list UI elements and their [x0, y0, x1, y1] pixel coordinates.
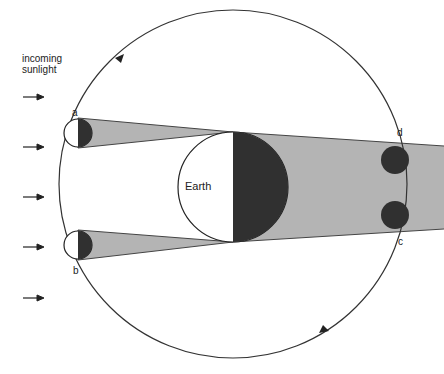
moon-a-label: a [72, 107, 78, 118]
sunlight-label-line1: incoming [22, 53, 62, 64]
moon-c-label: c [398, 236, 403, 247]
sunlight-label-line2: sunlight [22, 64, 56, 75]
orbit-arrow-bottom [319, 325, 329, 333]
earth-label: Earth [185, 181, 211, 192]
moon-d [381, 146, 409, 174]
moon-b-label: b [73, 265, 79, 276]
moon-c [381, 201, 409, 229]
moon-d-label: d [397, 127, 403, 138]
diagram-canvas [0, 0, 444, 374]
sunlight-arrows [23, 94, 44, 301]
